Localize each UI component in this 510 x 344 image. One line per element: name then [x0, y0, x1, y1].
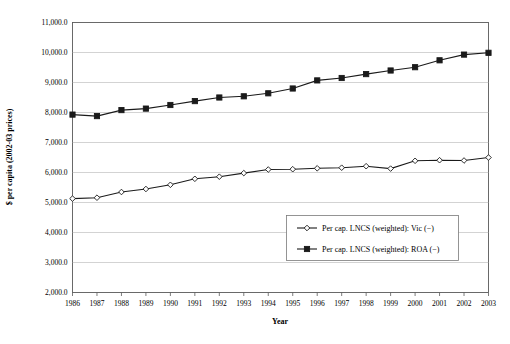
chart-legend: Per cap. LNCS (weighted): Vic (−)Per cap…: [287, 216, 459, 261]
y-tick-label: 10,000.0: [41, 48, 68, 57]
data-point-marker-square: [192, 99, 197, 104]
x-tick-label: 2000: [408, 299, 423, 308]
data-point-marker-square: [266, 91, 271, 96]
x-tick-label: 1987: [89, 299, 104, 308]
data-point-marker-square: [290, 86, 295, 91]
x-tick-label: 1996: [310, 299, 325, 308]
data-point-marker-square: [339, 75, 344, 80]
x-tick-label: 1999: [383, 299, 398, 308]
y-tick-label: 4,000.0: [45, 228, 68, 237]
data-point-marker-square: [461, 52, 466, 57]
data-point-marker-square: [168, 102, 173, 107]
x-tick-label: 1990: [163, 299, 178, 308]
x-axis-title: Year: [272, 317, 288, 326]
line-chart: 11,000.010,000.09,000.08,000.07,000.06,0…: [0, 0, 510, 344]
x-tick-label: 1993: [236, 299, 251, 308]
data-point-marker-square: [388, 68, 393, 73]
y-axis-title: $ per capita (2002-03 prices): [5, 108, 14, 205]
data-point-marker-square: [70, 112, 75, 117]
y-tick-label: 7,000.0: [45, 138, 68, 147]
x-tick-label: 1992: [212, 299, 227, 308]
legend-label: Per cap. LNCS (weighted): Vic (−): [322, 224, 434, 233]
chart-figure: 11,000.010,000.09,000.08,000.07,000.06,0…: [0, 0, 510, 344]
data-point-marker-square: [94, 114, 99, 119]
y-tick-label: 11,000.0: [42, 18, 68, 27]
x-tick-label: 1991: [187, 299, 202, 308]
x-tick-label: 2002: [457, 299, 472, 308]
x-tick-label: 1997: [334, 299, 349, 308]
x-tick-label: 1988: [114, 299, 129, 308]
x-tick-label: 1989: [138, 299, 153, 308]
x-tick-label: 2001: [432, 299, 447, 308]
x-tick-label: 2003: [481, 299, 496, 308]
y-tick-label: 9,000.0: [45, 78, 68, 87]
y-tick-label: 5,000.0: [45, 198, 68, 207]
y-tick-label: 2,000.0: [45, 288, 68, 297]
data-point-marker-square: [486, 50, 491, 55]
data-point-marker-square: [143, 106, 148, 111]
x-tick-label: 1995: [285, 299, 300, 308]
data-point-marker-square: [437, 58, 442, 63]
data-point-marker-square: [241, 94, 246, 99]
data-point-marker-square: [217, 95, 222, 100]
x-tick-label: 1998: [359, 299, 374, 308]
data-point-marker-square: [412, 65, 417, 70]
legend-label: Per cap. LNCS (weighted): ROA (−): [322, 245, 440, 254]
data-point-marker-square: [364, 72, 369, 77]
data-point-marker-square: [304, 246, 309, 251]
x-tick-label: 1994: [261, 299, 276, 308]
data-point-marker-square: [315, 78, 320, 83]
data-point-marker-square: [119, 108, 124, 113]
x-tick-label: 1986: [65, 299, 80, 308]
y-tick-label: 8,000.0: [45, 108, 68, 117]
y-tick-label: 6,000.0: [45, 168, 68, 177]
y-tick-label: 3,000.0: [45, 258, 68, 267]
